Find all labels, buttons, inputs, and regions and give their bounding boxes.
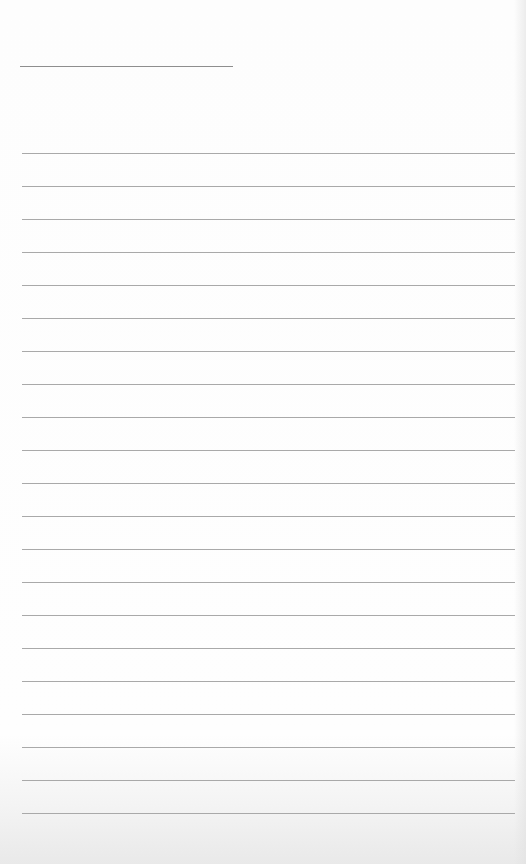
lined-page: [0, 0, 526, 864]
ruled-line: [22, 351, 515, 352]
ruled-line: [22, 318, 515, 319]
ruled-line: [22, 681, 515, 682]
ruled-line: [22, 483, 515, 484]
ruled-line: [22, 582, 515, 583]
ruled-line: [22, 648, 515, 649]
ruled-line: [22, 186, 515, 187]
page-edge-shadow: [514, 0, 526, 864]
ruled-line: [22, 549, 515, 550]
header-title-line: [20, 66, 233, 67]
ruled-line: [22, 450, 515, 451]
ruled-line: [22, 516, 515, 517]
ruled-line: [22, 384, 515, 385]
ruled-line: [22, 219, 515, 220]
ruled-line: [22, 417, 515, 418]
ruled-line: [22, 747, 515, 748]
ruled-line: [22, 615, 515, 616]
ruled-line: [22, 714, 515, 715]
ruled-line: [22, 252, 515, 253]
ruled-line: [22, 813, 515, 814]
ruled-line: [22, 285, 515, 286]
ruled-line: [22, 153, 515, 154]
ruled-line: [22, 780, 515, 781]
